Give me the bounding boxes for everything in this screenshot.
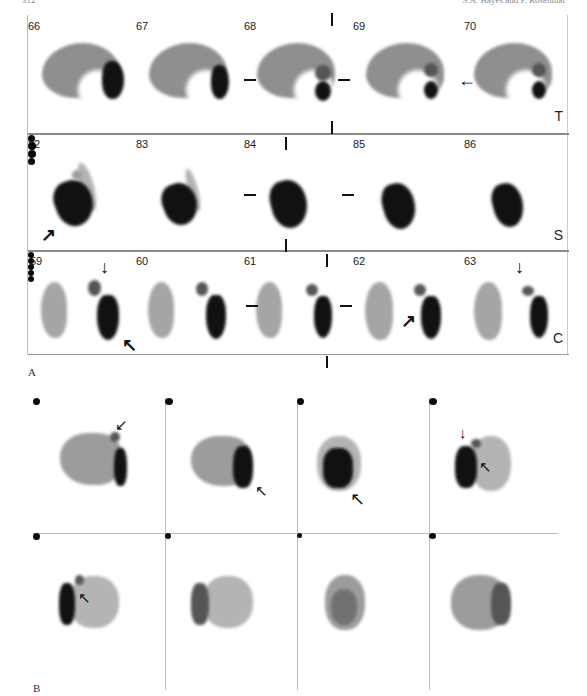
slice-image	[28, 276, 569, 282]
arrow-up-left-icon: ↖	[255, 482, 268, 500]
arrow-down-icon: ↓	[100, 258, 109, 276]
running-head-authors: S.A. Hayes and P. Rosenthal	[462, 0, 565, 5]
crosshair-marker	[326, 356, 328, 368]
plane-label-s: S	[554, 227, 563, 243]
crosshair-marker	[342, 194, 354, 196]
slice-label: 85	[353, 138, 365, 150]
arrow-down-icon: ↓	[515, 258, 524, 276]
panel-a-label: A	[28, 366, 36, 378]
slice-image	[28, 135, 569, 142]
slice-label: 86	[464, 138, 476, 150]
crosshair-marker	[338, 79, 350, 81]
crosshair-marker	[326, 254, 328, 267]
slice-label: 83	[136, 138, 148, 150]
crosshair-marker	[246, 305, 258, 307]
slice-label: 63	[464, 255, 476, 267]
arrow-up-left-icon: ↖	[122, 336, 137, 354]
crosshair-marker	[340, 305, 352, 307]
transaxial-row: 66 67 68 69 70	[28, 15, 569, 135]
slice-image	[28, 158, 569, 165]
planar-image-1: ↙	[33, 398, 164, 533]
slice-label: 62	[353, 255, 365, 267]
planar-image-4: ↓ ↖	[429, 398, 560, 533]
arrow-up-right-icon: ↗	[401, 312, 416, 330]
panel-a-spect-slices: 66 67 68 69 70	[27, 15, 568, 355]
crosshair-marker	[244, 194, 256, 196]
slice-label: 68	[244, 20, 256, 32]
slice-label: 60	[136, 255, 148, 267]
arrow-left-icon: ←	[458, 71, 476, 89]
planar-image-6	[165, 533, 296, 668]
arrow-up-left-icon: ↖	[78, 589, 91, 607]
slice-label: 67	[136, 20, 148, 32]
slice-image	[28, 142, 569, 150]
crosshair-marker	[244, 79, 256, 81]
slice-label: 84	[244, 138, 256, 150]
planar-image-7	[297, 533, 428, 668]
crosshair-marker	[331, 13, 333, 26]
planar-image-8	[429, 533, 560, 668]
coronal-row: 59 60 61 62 63	[28, 252, 569, 355]
sagittal-row: 82 83 84 85 86 ↗ S	[28, 135, 569, 252]
arrow-down-left-icon: ↙	[115, 416, 128, 434]
panel-b-label: B	[33, 682, 40, 694]
page-number: 312	[22, 0, 36, 5]
slice-label: 69	[353, 20, 365, 32]
plane-label-c: C	[553, 330, 563, 346]
slice-label: 66	[28, 20, 40, 32]
plane-label-t: T	[554, 108, 563, 124]
planar-image-2: ↖	[165, 398, 296, 533]
slice-image	[28, 150, 569, 158]
arrow-up-left-icon: ↖	[350, 490, 365, 508]
crosshair-marker	[285, 239, 287, 252]
crosshair-marker	[331, 121, 333, 134]
slice-label: 70	[464, 20, 476, 32]
crosshair-marker	[285, 137, 287, 150]
arrow-down-icon: ↓	[459, 424, 467, 442]
panel-b-planar-views: ↙ ↖ ↖ ↓ ↖ ↖	[33, 398, 558, 690]
planar-image-3: ↖	[297, 398, 428, 533]
arrow-up-right-icon: ↗	[41, 226, 56, 244]
planar-image-5: ↖	[33, 533, 164, 668]
slice-label: 61	[244, 255, 256, 267]
arrow-up-left-icon: ↖	[479, 458, 492, 476]
